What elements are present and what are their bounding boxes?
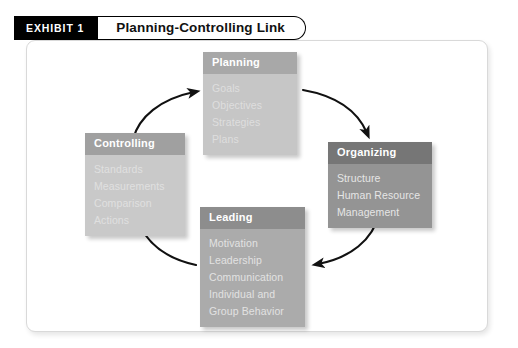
box-item: Objectives (212, 97, 289, 114)
box-item: Motivation (209, 235, 297, 252)
box-item: Communication (209, 269, 297, 286)
box-item: Comparison (94, 195, 177, 212)
box-item: Individual and Group Behavior (209, 286, 297, 320)
box-item: Strategies (212, 114, 289, 131)
box-title-controlling: Controlling (85, 133, 185, 155)
box-item: Human Resource Management (337, 187, 424, 221)
box-items-planning: Goals Objectives Strategies Plans (203, 74, 297, 155)
box-items-controlling: Standards Measurements Comparison Action… (85, 155, 185, 236)
box-item: Measurements (94, 178, 177, 195)
box-title-planning: Planning (203, 52, 297, 74)
box-items-organizing: Structure Human Resource Management (328, 164, 432, 228)
box-title-organizing: Organizing (328, 142, 432, 164)
exhibit-header: EXHIBIT 1 Planning-Controlling Link (14, 16, 306, 40)
box-item: Standards (94, 161, 177, 178)
box-items-leading: Motivation Leadership Communication Indi… (200, 229, 305, 327)
function-box-leading[interactable]: Leading Motivation Leadership Communicat… (200, 207, 305, 327)
function-box-organizing[interactable]: Organizing Structure Human Resource Mana… (328, 142, 432, 228)
function-box-planning[interactable]: Planning Goals Objectives Strategies Pla… (203, 52, 297, 155)
box-title-leading: Leading (200, 207, 305, 229)
function-box-controlling[interactable]: Controlling Standards Measurements Compa… (85, 133, 185, 236)
exhibit-container: EXHIBIT 1 Planning-Controlling Link Plan… (0, 0, 518, 348)
box-item: Structure (337, 170, 424, 187)
page-title: Planning-Controlling Link (116, 21, 285, 35)
box-item: Actions (94, 212, 177, 229)
box-item: Leadership (209, 252, 297, 269)
exhibit-title-pill: Planning-Controlling Link (98, 16, 306, 40)
box-item: Plans (212, 131, 289, 148)
box-item: Goals (212, 80, 289, 97)
exhibit-number-tag: EXHIBIT 1 (14, 16, 98, 40)
